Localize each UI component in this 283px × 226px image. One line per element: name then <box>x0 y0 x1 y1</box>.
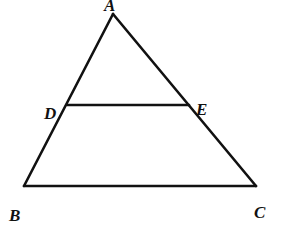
triangle-diagram: A B C D E <box>0 0 283 226</box>
point-label-d: D <box>43 104 56 123</box>
vertex-label-c: C <box>254 203 266 222</box>
segment-ac <box>113 14 256 186</box>
vertex-label-a: A <box>103 0 115 15</box>
vertex-label-b: B <box>8 206 20 225</box>
segment-ab <box>24 14 113 186</box>
point-label-e: E <box>195 100 207 119</box>
